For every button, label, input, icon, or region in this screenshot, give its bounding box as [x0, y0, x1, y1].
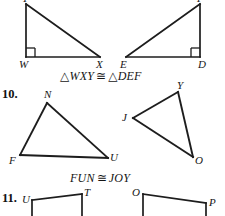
vertex-label-f-top-right: F — [197, 0, 204, 4]
congruence-right-vertices-2: JOY — [109, 171, 130, 185]
triangle-symbol-right: △ — [108, 69, 117, 83]
vertex-label-d: D — [198, 59, 206, 70]
congruence-statement-wxy-def: △WXY≅△DEF — [60, 70, 142, 82]
vertex-label-u: U — [110, 152, 118, 163]
vertex-label-y-top-left: Y — [22, 0, 28, 4]
vertex-label-n: N — [44, 89, 51, 100]
vertex-label-f-left: F — [9, 155, 16, 166]
vertex-label-o: O — [195, 155, 203, 166]
vertex-label-t-2: T — [84, 187, 90, 198]
triangle-wxy-shape — [26, 4, 100, 57]
congruent-symbol-1: ≅ — [94, 69, 108, 83]
congruence-right-vertices: DEF — [118, 69, 142, 83]
congruence-statement-fun-joy: FUN≅JOY — [70, 172, 130, 184]
problem-number-10: 10. — [2, 88, 18, 101]
vertex-label-u-2: U — [22, 194, 30, 205]
right-angle-marker-w — [26, 48, 35, 57]
worksheet-page: Y W X F E D △WXY≅△DEF 10. N F U Y J O FU… — [0, 0, 225, 216]
right-angle-marker-d — [191, 48, 200, 57]
vertex-label-w: W — [19, 59, 28, 70]
congruent-symbol-2: ≅ — [95, 171, 109, 185]
problem-number-11: 11. — [2, 192, 17, 205]
vertex-label-j: J — [122, 112, 127, 123]
triangle-fun-shape — [20, 103, 108, 158]
triangle-def-shape — [126, 4, 200, 57]
congruence-left-vertices-2: FUN — [70, 171, 95, 185]
vertex-label-p-2: P — [209, 197, 216, 208]
triangle-joy-shape — [133, 92, 193, 157]
vertex-label-y-right: Y — [177, 80, 183, 91]
quadrilateral-right-shape — [143, 194, 206, 216]
vertex-label-o-2: O — [132, 187, 140, 198]
quadrilateral-left-shape — [32, 194, 82, 216]
congruence-left-vertices: WXY — [69, 69, 94, 83]
